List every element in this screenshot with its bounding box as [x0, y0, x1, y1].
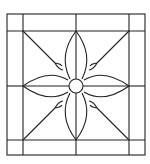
center-circle	[69, 79, 83, 93]
stained-glass-pattern	[0, 0, 150, 164]
